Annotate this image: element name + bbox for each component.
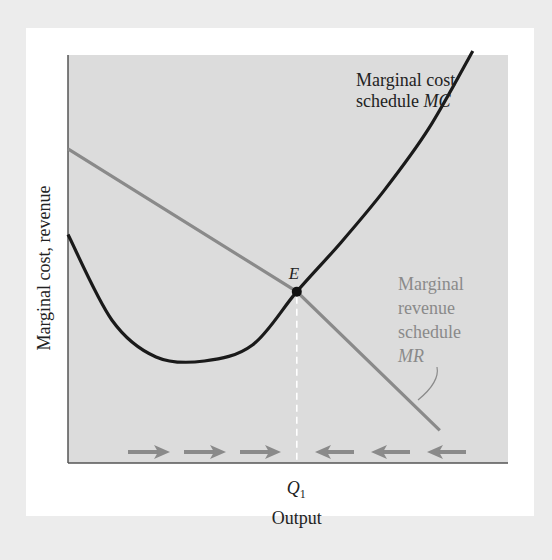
plot-area [68, 55, 508, 463]
x-tick-q1-subscript: 1 [300, 487, 306, 501]
mr-label-line-3: schedule [398, 322, 461, 342]
equilibrium-label: E [288, 264, 300, 283]
chart: Marginal cost, revenue Output Q1 E Margi… [0, 0, 552, 560]
x-axis-label: Output [272, 508, 322, 528]
mc-legend-label: Marginal cost schedule MC [356, 70, 455, 111]
mr-label-line-2: revenue [398, 298, 455, 318]
mc-label-line-2-text: schedule [356, 91, 423, 111]
mr-label-symbol: MR [397, 346, 424, 366]
mc-label-symbol: MC [422, 91, 451, 111]
x-tick-q1-letter: Q [287, 478, 300, 498]
y-axis-label: Marginal cost, revenue [34, 185, 54, 350]
equilibrium-point-e [292, 287, 302, 297]
mr-label-line-1: Marginal [398, 274, 464, 294]
x-tick-q1: Q1 [287, 478, 306, 501]
mc-label-line-2: schedule MC [356, 91, 451, 111]
mc-label-line-1: Marginal cost [356, 70, 455, 90]
